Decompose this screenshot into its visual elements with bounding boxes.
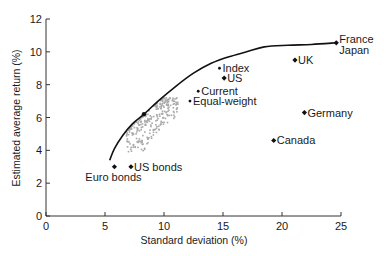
cloud-point <box>133 133 135 135</box>
chart: 0510152025024681012 FranceJapanUKIndexUS… <box>0 0 387 256</box>
cloud-point <box>158 126 160 128</box>
cloud-point <box>172 107 174 109</box>
diamond-marker <box>112 164 117 169</box>
x-tick-label: 0 <box>43 220 49 232</box>
diamond-marker <box>128 164 133 169</box>
cloud-point <box>172 97 174 99</box>
cloud-point <box>155 108 157 110</box>
cloud-point <box>146 137 148 139</box>
cloud-point <box>137 140 139 142</box>
dot-marker <box>218 67 221 70</box>
cloud-point <box>171 114 173 116</box>
cloud-point <box>137 123 139 125</box>
cloud-point <box>160 122 162 124</box>
cloud-point <box>153 116 155 118</box>
cloud-point <box>162 110 164 112</box>
cloud-point <box>133 144 135 146</box>
cloud-point <box>134 146 136 148</box>
point-label: Germany <box>307 107 353 119</box>
cloud-point <box>172 99 174 101</box>
cloud-point <box>131 128 133 130</box>
cloud-point <box>157 108 159 110</box>
cloud-point <box>144 147 146 149</box>
cloud-point <box>149 115 151 117</box>
cloud-point <box>156 132 158 134</box>
point-equal-weight: Equal-weight <box>189 95 257 107</box>
point-label: Equal-weight <box>193 95 257 107</box>
cloud-point <box>165 99 167 101</box>
cloud-point <box>139 138 141 140</box>
cloud-point <box>152 129 154 131</box>
cloud-point <box>173 114 175 116</box>
cloud-point <box>150 126 152 128</box>
diamond-marker <box>334 40 339 45</box>
cloud-point <box>165 101 167 103</box>
cloud-point <box>137 147 139 149</box>
cloud-point <box>167 105 169 107</box>
cloud-point <box>130 149 132 151</box>
cloud-point <box>167 99 169 101</box>
cloud-point <box>129 131 131 133</box>
cloud-point <box>128 151 130 153</box>
y-tick-label: 8 <box>36 79 42 91</box>
x-tick-label: 20 <box>276 220 288 232</box>
cloud-point <box>146 143 148 145</box>
cloud-point <box>136 138 138 140</box>
cloud-point <box>146 121 148 123</box>
cloud-point <box>161 105 163 107</box>
cloud-point <box>166 103 168 105</box>
cloud-point <box>176 111 178 113</box>
cloud-point <box>166 111 168 113</box>
y-tick-label: 6 <box>36 112 42 124</box>
cloud-point <box>134 127 136 129</box>
cloud-point <box>157 105 159 107</box>
x-tick-label: 15 <box>217 220 229 232</box>
cloud-point <box>140 124 142 126</box>
cloud-point <box>156 114 158 116</box>
y-tick-label: 0 <box>36 210 42 222</box>
cloud-point <box>156 126 158 128</box>
cloud-point <box>142 123 144 125</box>
cloud-point <box>174 116 176 118</box>
cloud-point <box>141 149 143 151</box>
cloud-point <box>173 100 175 102</box>
cloud-point <box>159 115 161 117</box>
cloud-point <box>142 143 144 145</box>
cloud-point <box>169 115 171 117</box>
cloud-point <box>158 129 160 131</box>
cloud-point <box>176 107 178 109</box>
y-tick-label: 2 <box>36 177 42 189</box>
cloud-point <box>175 104 177 106</box>
simulated-portfolio-cloud <box>126 97 179 152</box>
labeled-points: FranceJapanUKIndexUSCurrentEqual-weightG… <box>85 33 373 183</box>
cloud-point <box>144 131 146 133</box>
diamond-marker <box>292 57 297 62</box>
cloud-point <box>139 130 141 132</box>
cloud-point <box>157 116 159 118</box>
diamond-marker <box>302 110 307 115</box>
cloud-point <box>169 97 171 99</box>
cloud-point <box>135 133 137 135</box>
cloud-point <box>164 98 166 100</box>
cloud-point <box>153 134 155 136</box>
cloud-point <box>173 103 175 105</box>
cloud-point <box>136 127 138 129</box>
cloud-point <box>126 135 128 137</box>
dot-marker <box>189 100 192 103</box>
cloud-point <box>138 124 140 126</box>
cloud-point <box>163 105 165 107</box>
x-tick-label: 5 <box>102 220 108 232</box>
cloud-point <box>168 109 170 111</box>
cloud-point <box>167 122 169 124</box>
cloud-point <box>151 137 153 139</box>
cloud-point <box>141 127 143 129</box>
cloud-point <box>151 122 153 124</box>
point-uk: UK <box>292 54 314 66</box>
cloud-point <box>129 143 131 145</box>
cloud-point <box>173 112 175 114</box>
cloud-point <box>173 118 175 120</box>
point-germany: Germany <box>302 107 353 119</box>
cloud-point <box>145 123 147 125</box>
cloud-point <box>163 123 165 125</box>
cloud-point <box>147 114 149 116</box>
